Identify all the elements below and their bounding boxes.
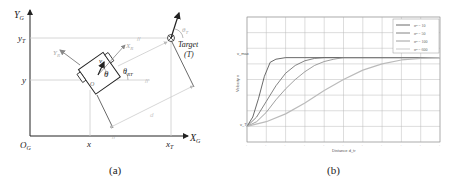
x-axis-title: Distance d_tr (332, 148, 356, 153)
y-tick-vt: v_T (240, 122, 247, 127)
svg-text://: // (112, 134, 116, 140)
x-robot-label: x (86, 139, 91, 149)
svg-text:·: · (265, 144, 266, 148)
robot-x-frame-label: XR (125, 42, 133, 51)
target-heading-arrow (171, 13, 179, 38)
svg-text:·: · (362, 144, 363, 148)
panel-a-caption: (a) (109, 164, 121, 176)
y-tick-vmax: v_max (237, 51, 249, 56)
panel-a-robot-diagram: // // // YG XG OG yT y x xT XR YR v θ θR… (0, 0, 230, 185)
svg-text:·: · (323, 144, 324, 148)
velocity-distance-chart: ··········· σ² = 10σ² = 50σ² = 100σ² = 6… (230, 0, 458, 185)
svg-text:·: · (246, 144, 247, 148)
svg-text://: // (137, 36, 141, 42)
panel-b-chart: ··········· σ² = 10σ² = 50σ² = 100σ² = 6… (230, 0, 458, 185)
distance-label: d (150, 111, 154, 119)
chart-legend: σ² = 10σ² = 50σ² = 100σ² = 600 (393, 19, 439, 53)
svg-text:·: · (381, 144, 382, 148)
legend-entry-0: σ² = 10 (414, 23, 426, 28)
x-target-label: xT (165, 139, 174, 150)
legend-entry-1: σ² = 50 (414, 31, 426, 36)
target-abbrev-label: (T) (184, 50, 194, 59)
robot-geometry-svg: // // // YG XG OG yT y x xT XR YR v θ θR… (0, 0, 230, 185)
target-label: Target (178, 40, 199, 49)
y-axis-title: Velocity v (235, 75, 240, 92)
y-robot-label: y (21, 75, 26, 85)
heading-label: θ (104, 69, 109, 79)
target-heading-label: θT (182, 26, 189, 35)
legend-entry-2: σ² = 100 (414, 39, 428, 44)
origin-label: OG (20, 140, 32, 151)
svg-text:·: · (439, 144, 440, 148)
svg-text:·: · (400, 144, 401, 148)
robot-center-label: O (90, 81, 95, 87)
y-axis-label: YG (14, 9, 25, 21)
bearing-label: θRT (123, 67, 134, 77)
distance-line (113, 86, 193, 126)
legend-entry-3: σ² = 600 (414, 47, 428, 52)
x-axis-label: XG (189, 132, 201, 144)
robot-perp-line (97, 95, 113, 128)
y-target-label: yT (17, 33, 26, 44)
svg-text://: // (145, 78, 149, 84)
svg-text:·: · (304, 144, 305, 148)
svg-text:·: · (420, 144, 421, 148)
svg-text:·: · (285, 144, 286, 148)
robot-y-axis-arrow (60, 50, 80, 65)
robot-y-frame-label: YR (53, 49, 60, 58)
panel-b-caption: (b) (327, 164, 340, 176)
